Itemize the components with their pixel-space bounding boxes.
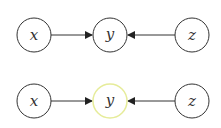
node-z: z [175, 18, 209, 52]
node-y: y [93, 18, 127, 52]
node-x: x [17, 84, 51, 118]
node-x-label: x [30, 26, 39, 44]
diagram-canvas: x y z x y z [0, 0, 221, 128]
node-x-label: x [30, 92, 39, 110]
top-graph: x y z [17, 18, 209, 52]
bottom-graph: x y z [17, 84, 209, 118]
node-y-label: y [105, 91, 115, 109]
node-y-highlighted: y [93, 84, 127, 118]
node-z-label: z [187, 92, 196, 110]
node-z: z [175, 84, 209, 118]
causal-graph-figure: x y z x y z [0, 0, 221, 128]
node-x: x [17, 18, 51, 52]
node-y-label: y [105, 25, 115, 43]
node-z-label: z [187, 26, 196, 44]
